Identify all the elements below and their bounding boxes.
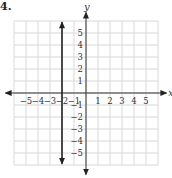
y-tick-label: 3: [78, 52, 83, 62]
x-tick-label: 3: [119, 96, 124, 106]
x-tick-label: 2: [107, 96, 112, 106]
x-tick-label: −5: [20, 96, 33, 106]
x-axis-label: x: [168, 88, 172, 98]
x-tick-label: 5: [143, 96, 148, 106]
y-tick-label: −1: [70, 100, 83, 110]
y-tick-label: 4: [78, 40, 83, 50]
coordinate-plane: xy−5−4−3−2−11234554321−1−2−3−4−5: [0, 0, 172, 178]
y-axis-label: y: [83, 1, 90, 12]
y-tick-label: −4: [70, 136, 83, 146]
y-tick-label: 1: [78, 76, 83, 86]
y-tick-label: 2: [78, 64, 83, 74]
y-tick-label: −5: [70, 148, 83, 158]
y-tick-label: −2: [70, 112, 83, 122]
x-tick-label: −3: [44, 96, 57, 106]
y-tick-label: 5: [78, 28, 83, 38]
x-tick-label: 4: [131, 96, 136, 106]
x-tick-label: −4: [32, 96, 45, 106]
x-tick-label: 1: [95, 96, 100, 106]
y-tick-label: −3: [70, 124, 83, 134]
